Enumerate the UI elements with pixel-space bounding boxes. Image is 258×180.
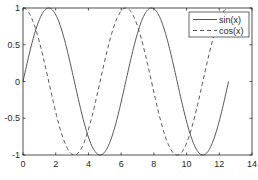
x-tick-label: 10 [182, 159, 192, 169]
x-tick-label: 4 [86, 159, 91, 169]
x-tick-label: 12 [214, 159, 224, 169]
x-tick-label: 8 [151, 159, 156, 169]
x-tick-label: 2 [53, 159, 58, 169]
y-tick-label: 0.5 [7, 40, 20, 50]
legend-label-cos: cos(x) [219, 26, 244, 36]
x-tick-label: 14 [247, 159, 257, 169]
y-tick-label: -0.5 [4, 113, 20, 123]
line-chart: 02468101214 -1-0.500.51 sin(x) cos(x) [0, 0, 258, 180]
legend: sin(x) cos(x) [189, 12, 249, 37]
legend-label-sin: sin(x) [219, 15, 241, 25]
y-tick-label: -1 [12, 150, 20, 160]
y-tick-label: 1 [15, 3, 20, 13]
x-tick-label: 6 [119, 159, 124, 169]
x-tick-label: 0 [20, 159, 25, 169]
y-tick-label: 0 [15, 77, 20, 87]
